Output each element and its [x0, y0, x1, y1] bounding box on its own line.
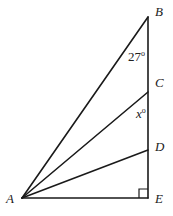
point-label-e: E [154, 191, 163, 206]
right-angle-marker-icon [139, 189, 148, 198]
degree-symbol-icon: o [141, 49, 145, 58]
segment-ad [22, 150, 148, 198]
point-label-a: A [5, 191, 14, 206]
degree-symbol-icon: o [142, 106, 146, 115]
angle-b-value: 27 [128, 49, 142, 64]
geometry-diagram: B C D E A 27o xo [0, 0, 173, 216]
angle-label-b: 27o [128, 49, 145, 64]
point-label-d: D [154, 139, 165, 154]
angle-label-c: xo [135, 106, 146, 121]
point-label-c: C [155, 75, 164, 90]
point-label-b: B [155, 4, 163, 19]
